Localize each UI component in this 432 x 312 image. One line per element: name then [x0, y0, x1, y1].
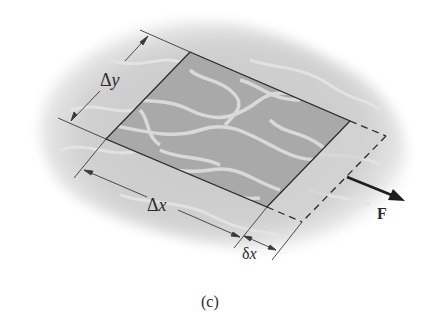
figure-caption: (c): [201, 293, 219, 311]
force-label: F: [377, 205, 387, 222]
figure-canvas: Δy Δx δx F (c): [0, 0, 432, 312]
delta-x-label: Δx: [147, 195, 167, 215]
shear-element-diagram: Δy Δx δx F (c): [0, 0, 432, 312]
delta-y-label: Δy: [100, 70, 120, 90]
small-delta-x-label: δx: [242, 245, 257, 262]
